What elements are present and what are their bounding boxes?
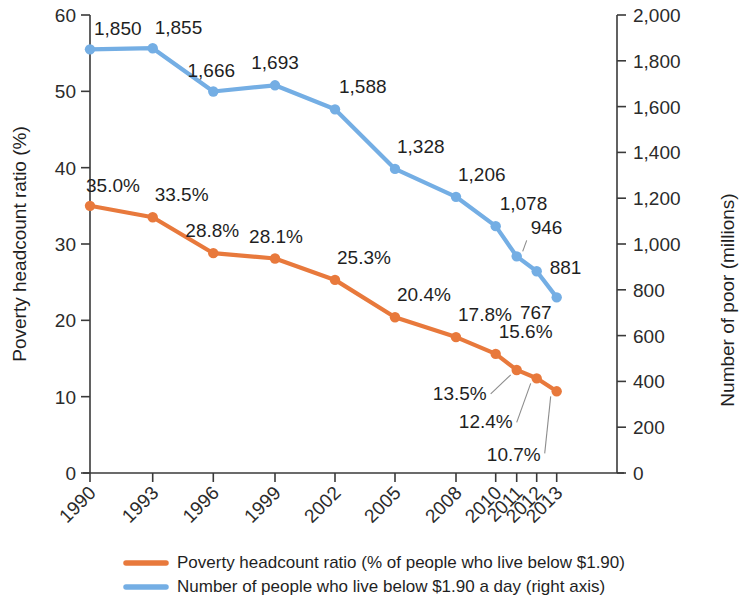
data-point[interactable] <box>491 349 501 359</box>
x-axis-tick-label: 1993 <box>118 482 163 527</box>
data-point[interactable] <box>552 292 562 302</box>
right-axis-tick-label: 400 <box>633 371 665 392</box>
label-leader-line <box>545 396 551 453</box>
data-point-label: 10.7% <box>487 444 541 465</box>
data-point[interactable] <box>491 221 501 231</box>
x-axis-tick-label: 2002 <box>300 482 345 527</box>
left-axis-tick-label: 20 <box>55 310 76 331</box>
poverty-chart: 010203040506002004006008001,0001,2001,40… <box>0 0 754 607</box>
data-point-label: 25.3% <box>337 247 391 268</box>
data-point-label: 13.5% <box>433 383 487 404</box>
data-point-label: 20.4% <box>397 284 451 305</box>
left-axis: 0102030405060 <box>55 5 90 484</box>
data-point-label: 28.8% <box>185 220 239 241</box>
data-point[interactable] <box>270 80 280 90</box>
label-leader-line <box>517 383 531 422</box>
right-axis-tick-label: 0 <box>633 463 644 484</box>
left-axis-title: Poverty headcount ratio (%) <box>9 126 30 362</box>
data-point-label: 881 <box>550 257 582 278</box>
left-axis-tick-label: 50 <box>55 81 76 102</box>
data-point[interactable] <box>270 253 280 263</box>
data-point-label: 1,693 <box>251 52 299 73</box>
right-axis-tick-label: 600 <box>633 326 665 347</box>
series-headcount-ratio: 35.0%33.5%28.8%28.1%25.3%20.4%17.8%15.6%… <box>85 175 562 465</box>
left-axis-tick-label: 60 <box>55 5 76 26</box>
data-point[interactable] <box>148 43 158 53</box>
x-axis-tick-label: 1990 <box>55 482 100 527</box>
data-point[interactable] <box>512 365 522 375</box>
data-point-label: 28.1% <box>249 226 303 247</box>
chart-canvas: 010203040506002004006008001,0001,2001,40… <box>0 0 754 607</box>
right-axis-tick-label: 1,200 <box>633 188 681 209</box>
data-point[interactable] <box>85 201 95 211</box>
data-point-label: 1,078 <box>500 193 548 214</box>
data-point[interactable] <box>330 104 340 114</box>
legend-item-label: Poverty headcount ratio (% of people who… <box>177 553 625 572</box>
data-point[interactable] <box>552 386 562 396</box>
data-point-label: 15.6% <box>499 321 553 342</box>
data-point[interactable] <box>148 212 158 222</box>
right-axis-tick-label: 1,600 <box>633 97 681 118</box>
data-point[interactable] <box>330 275 340 285</box>
data-point[interactable] <box>390 164 400 174</box>
legend: Poverty headcount ratio (% of people who… <box>126 553 625 596</box>
data-point[interactable] <box>208 248 218 258</box>
right-axis-tick-label: 800 <box>633 280 665 301</box>
left-axis-tick-label: 0 <box>65 463 76 484</box>
data-point-label: 35.0% <box>86 175 140 196</box>
x-axis-tick-label: 1999 <box>240 482 285 527</box>
right-axis-title: Number of poor (millions) <box>717 193 738 406</box>
data-point[interactable] <box>390 312 400 322</box>
label-leader-line <box>491 375 511 394</box>
data-point[interactable] <box>208 86 218 96</box>
right-axis-tick-label: 2,000 <box>633 5 681 26</box>
right-axis-tick-label: 200 <box>633 417 665 438</box>
x-axis-tick-label: 1996 <box>178 482 223 527</box>
right-axis-tick-label: 1,800 <box>633 51 681 72</box>
data-point-label: 12.4% <box>459 411 513 432</box>
data-point[interactable] <box>451 332 461 342</box>
legend-item-label: Number of people who live below $1.90 a … <box>177 577 605 596</box>
data-point-label: 1,855 <box>155 17 203 38</box>
series-line <box>90 206 557 391</box>
right-axis: 02004006008001,0001,2001,4001,6001,8002,… <box>617 5 681 484</box>
data-point-label: 1,666 <box>188 60 236 81</box>
data-point-label: 33.5% <box>155 184 209 205</box>
left-axis-tick-label: 30 <box>55 234 76 255</box>
data-point-label: 1,328 <box>397 136 445 157</box>
data-point-label: 946 <box>531 217 563 238</box>
data-point-label: 1,588 <box>339 76 387 97</box>
data-point[interactable] <box>532 373 542 383</box>
right-axis-tick-label: 1,400 <box>633 142 681 163</box>
data-point[interactable] <box>512 251 522 261</box>
x-axis: 1990199319961999200220052008201020112012… <box>55 473 624 527</box>
left-axis-tick-label: 40 <box>55 158 76 179</box>
x-axis-tick-label: 2005 <box>360 482 405 527</box>
data-point[interactable] <box>451 192 461 202</box>
data-point-label: 1,850 <box>94 18 142 39</box>
x-axis-tick-label: 2008 <box>421 482 466 527</box>
data-point[interactable] <box>532 266 542 276</box>
left-axis-tick-label: 10 <box>55 387 76 408</box>
data-point[interactable] <box>85 44 95 54</box>
label-leader-line <box>523 240 527 251</box>
right-axis-tick-label: 1,000 <box>633 234 681 255</box>
data-point-label: 1,206 <box>458 164 506 185</box>
